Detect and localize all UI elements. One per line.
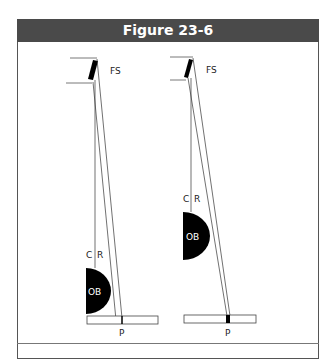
ob-label: OB [88,287,101,297]
c-label: C [183,194,189,204]
fs-mirror-icon [184,59,193,78]
r-label: R [97,250,103,260]
fs-mirror-icon [88,60,98,80]
right-diagram: FS C R OB P [170,57,256,338]
r-label: R [194,194,200,204]
left-diagram: FS C R OB P [66,58,158,338]
ob-label: OB [186,232,199,242]
fs-label: FS [206,65,217,75]
c-label: C [86,250,92,260]
p-label: P [119,328,125,338]
fs-label: FS [110,66,121,76]
p-label: P [225,328,231,338]
